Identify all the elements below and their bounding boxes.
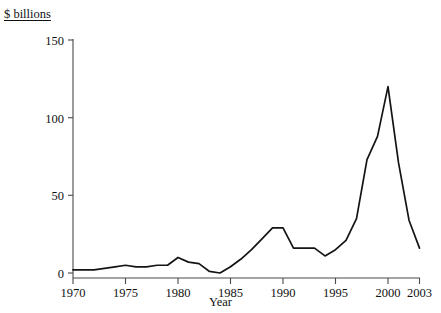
y-tick-label-0: 0 — [58, 267, 64, 281]
y-tick-label-150: 150 — [45, 34, 64, 48]
y-axis: 150 100 50 0 — [45, 34, 73, 281]
y-tick-label-50: 50 — [52, 189, 65, 203]
x-axis-title: Year — [0, 295, 441, 309]
chart-figure: $ billions 150 100 50 0 1970 1975 1980 — [0, 0, 441, 313]
data-series-line — [73, 87, 420, 273]
line-chart-plot: 150 100 50 0 1970 1975 1980 1985 1990 19… — [0, 0, 441, 313]
y-tick-label-100: 100 — [45, 112, 64, 126]
